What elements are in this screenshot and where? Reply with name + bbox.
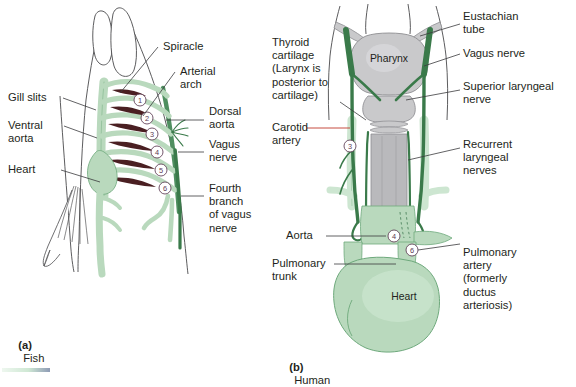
fish-label-vagus-nerve: Vagus nerve [209,138,240,164]
fish-descending-aorta [99,192,102,274]
fish-arch-number-2: 2 [141,112,153,124]
caption-human: (b) Human [283,348,330,387]
fish-arch-number-6: 6 [159,182,171,194]
human-arch-number-4-text: 4 [392,232,396,241]
human-arch-number-3: 3 [344,140,356,152]
fish-label-dorsal-aorta: Dorsal aorta [209,105,241,131]
human-arch-number-4: 4 [388,230,400,242]
human-label-pulmonary-trunk: Pulmonary trunk [272,257,325,283]
human-arch-number-6: 6 [406,244,418,256]
human-label-superior-laryngeal-nerve: Superior laryngeal nerve [463,80,554,106]
human-label-recurrent-laryngeal-nerves: Recurrent laryngeal nerves [463,138,512,178]
fish-label-arterial-arch: Arterial arch [180,65,215,91]
human-label-thyroid-cartilage: Thyroid cartilage (Larynx is posterior t… [272,36,328,102]
fish-arch-number-2-text: 2 [145,114,149,123]
caption-fish: (a) Fish [12,326,44,365]
fish-arch-number-4: 4 [151,146,163,158]
caption-human-marker: (b) [289,361,303,373]
fish-arch-number-1-text: 1 [138,96,142,105]
fish-arch-number-3: 3 [146,128,158,140]
fish-arch-number-5-text: 5 [159,166,163,175]
bottom-edge-bar [2,368,50,372]
human-arch-number-3-text: 3 [348,142,352,151]
human-label-eustachian-tube: Eustachian tube [463,10,518,36]
caption-fish-marker: (a) [18,339,32,351]
human-arch-number-6-text: 6 [410,246,414,255]
fish-arch-number-3-text: 3 [150,130,154,139]
fish-arch-number-1: 1 [134,94,146,106]
human-label-vagus-nerve: Vagus nerve [463,47,525,60]
human-label-carotid-artery: Carotid artery [272,121,308,147]
fish-arch-number-4-text: 4 [155,148,159,157]
fish-arch-number-5: 5 [155,164,167,176]
fish-label-fourth-branch-of-vagus-nerve: Fourth branch of vagus nerve [209,182,251,235]
fish-jaw-cartilage-left [93,11,113,65]
fish-label-ventral-aorta: Ventral aorta [8,119,43,145]
aortic-arch-body [361,206,416,244]
fish-label-spiracle: Spiracle [163,40,203,53]
fish-arch-number-6-text: 6 [163,184,167,193]
human-heart-label: Heart [391,291,417,302]
caption-fish-text: Fish [23,352,44,364]
caption-human-text: Human [294,374,330,386]
fish-label-heart: Heart [8,163,35,176]
human-label-aorta: Aorta [286,229,313,242]
pharynx-label: Pharynx [370,53,409,64]
human-label-pulmonary-artery: Pulmonary artery (formerly ductus arteri… [463,246,516,312]
fish-label-gill-slits: Gill slits [8,91,47,104]
fish-outflow-vessel-right [170,200,172,240]
